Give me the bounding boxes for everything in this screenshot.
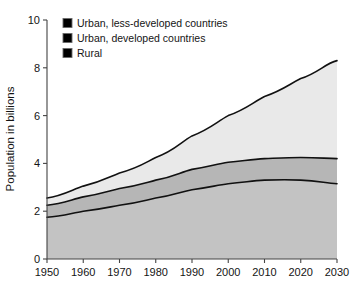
x-tick-label: 2030 [325, 266, 349, 278]
x-tick-label: 2010 [252, 266, 276, 278]
y-tick-label: 8 [34, 62, 40, 74]
x-tick-label: 1980 [144, 266, 168, 278]
y-tick-label: 10 [28, 14, 40, 26]
legend-label-urban-developed: Urban, developed countries [77, 32, 205, 44]
legend-swatch-urban-developed [63, 34, 72, 43]
legend-swatch-urban-less-developed [63, 19, 72, 28]
x-axis-ticks: 195019601970198019902000201020202030 [35, 259, 349, 278]
legend-label-rural: Rural [77, 47, 102, 59]
x-tick-label: 1960 [71, 266, 95, 278]
x-tick-label: 2000 [216, 266, 240, 278]
chart-figure: 0246810 19501960197019801990200020102020… [0, 0, 356, 289]
legend-item-urban-developed: Urban, developed countries [63, 32, 205, 44]
stacked-area-chart: 0246810 19501960197019801990200020102020… [0, 0, 356, 289]
legend-label-urban-less-developed: Urban, less-developed countries [77, 17, 228, 29]
x-tick-label: 2020 [289, 266, 313, 278]
x-tick-label: 1970 [107, 266, 131, 278]
x-tick-label: 1950 [35, 266, 59, 278]
x-tick-label: 1990 [180, 266, 204, 278]
y-tick-label: 2 [34, 205, 40, 217]
y-tick-label: 4 [34, 157, 40, 169]
y-axis-ticks: 0246810 [28, 14, 47, 265]
legend-item-urban-less-developed: Urban, less-developed countries [63, 17, 228, 29]
y-tick-label: 6 [34, 110, 40, 122]
y-axis-title: Population in billions [4, 86, 16, 191]
legend-swatch-rural [63, 49, 72, 58]
y-tick-label: 0 [34, 253, 40, 265]
legend-item-rural: Rural [63, 47, 102, 59]
